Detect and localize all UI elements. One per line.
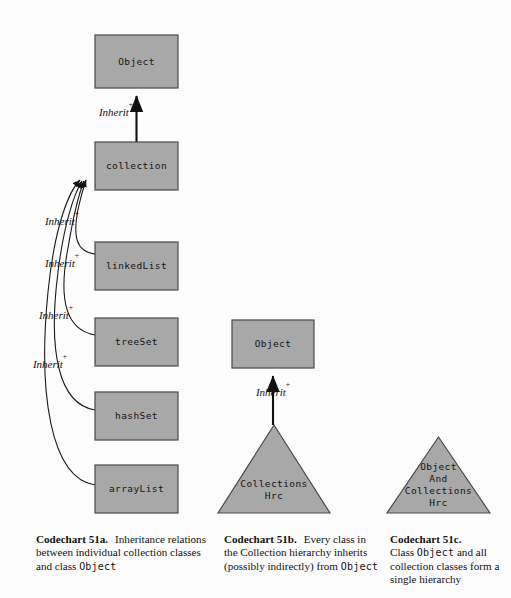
edge-collectionshrc-to-object: Inherit+ — [255, 376, 290, 425]
node-object-51a[interactable]: Object — [95, 35, 178, 88]
node-object-51b[interactable]: Object — [232, 320, 314, 368]
node-label-collections-hrc-line2: Hrc — [265, 490, 283, 501]
caption-51b-mono: Object — [341, 561, 378, 572]
codechart-51c-group: Object And Collections Hrc — [387, 437, 490, 513]
node-label-objectandcollections-line4: Hrc — [429, 497, 447, 508]
edge-label-collection-object: Inherit+ — [98, 100, 133, 118]
node-label-object-51b: Object — [255, 338, 292, 349]
node-treeset-51a[interactable]: treeSet — [95, 318, 178, 366]
codechart-diagram-svg: Inherit+ Inherit+ Inherit+ Inherit+ Inhe… — [0, 0, 511, 598]
node-object-and-collections-hrc-51c[interactable]: Object And Collections Hrc — [387, 437, 490, 513]
edge-label-hashset-collection: Inherit+ — [38, 303, 73, 321]
caption-51b: Codechart 51b.Every class in the Collect… — [224, 533, 382, 573]
codechart-51b-group: Inherit+ Object Collections Hrc — [218, 320, 330, 513]
caption-51a-tag: Codechart 51a. — [36, 533, 108, 545]
edge-label-treeset-collection: Inherit+ — [44, 251, 79, 269]
node-linkedlist-51a[interactable]: linkedList — [95, 242, 178, 290]
codechart-figure: Inherit+ Inherit+ Inherit+ Inherit+ Inhe… — [0, 0, 511, 598]
node-label-arraylist-51a: arrayList — [109, 483, 164, 494]
edge-label-arraylist-collection: Inherit+ — [32, 352, 67, 370]
node-label-hashset-51a: hashSet — [115, 410, 158, 421]
edge-linkedlist-to-collection: Inherit+ — [44, 180, 95, 254]
node-label-objectandcollections-line1: Object — [420, 461, 457, 472]
node-label-linkedlist-51a: linkedList — [106, 260, 167, 271]
caption-51a: Codechart 51a.Inheritance relations betw… — [36, 533, 212, 573]
node-collections-hrc-51b[interactable]: Collections Hrc — [218, 425, 330, 513]
node-label-treeset-51a: treeSet — [115, 336, 158, 347]
caption-51b-tag: Codechart 51b. — [224, 533, 297, 545]
caption-51c-text-before: Class — [390, 546, 417, 558]
node-label-collection-51a: collection — [106, 160, 167, 171]
node-arraylist-51a[interactable]: arrayList — [95, 465, 178, 513]
codechart-51a-group: Inherit+ Inherit+ Inherit+ Inherit+ Inhe… — [32, 35, 178, 513]
edge-collection-to-object: Inherit+ — [98, 96, 137, 142]
node-label-objectandcollections-line3: Collections — [405, 485, 472, 496]
caption-51a-mono: Object — [79, 561, 116, 572]
caption-51c-mono: Object — [417, 547, 454, 558]
node-collection-51a[interactable]: collection — [95, 142, 178, 190]
node-label-object-51a: Object — [118, 56, 155, 67]
node-label-objectandcollections-line2: And — [429, 473, 447, 484]
node-hashset-51a[interactable]: hashSet — [95, 392, 178, 440]
caption-51c-tag: Codechart 51c. — [390, 533, 461, 545]
node-label-collections-hrc-line1: Collections — [240, 478, 307, 489]
caption-51c: Codechart 51c.Class Object and all colle… — [390, 533, 508, 587]
